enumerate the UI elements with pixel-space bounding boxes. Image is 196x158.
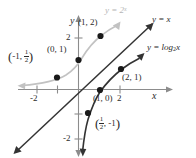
curve-label-logarithm-arg: x bbox=[176, 42, 180, 52]
y-axis-label: y bbox=[70, 16, 74, 26]
tick-label-y-pos2: 2 bbox=[66, 33, 71, 42]
point-label-neg1-half: (-1, 1 2 ) bbox=[8, 49, 33, 64]
point-0-1 bbox=[75, 57, 81, 63]
point-label-0-1: (0, 1) bbox=[47, 45, 67, 54]
point-label-half-neg1: ( 1 2 , -1) bbox=[95, 116, 120, 131]
curve-label-exponential-text: y = 2 bbox=[105, 5, 124, 15]
point-label-neg1-half-x: -1, bbox=[12, 51, 24, 61]
point-label-2-1: (2, 1) bbox=[122, 73, 142, 82]
curve-label-logarithm: y = log2x bbox=[147, 43, 180, 52]
curve-label-identity: y = x bbox=[152, 15, 171, 24]
tick-label-x-pos2: 2 bbox=[117, 94, 122, 103]
identity-line-group bbox=[14, 23, 154, 154]
logarithm-curve-bottom-arrow bbox=[80, 149, 87, 157]
tick-label-x-neg2: -2 bbox=[30, 94, 38, 103]
point-neg1-half bbox=[54, 74, 60, 80]
x-axis-label: x bbox=[152, 91, 156, 101]
tick-label-y-neg2: -2 bbox=[63, 134, 71, 143]
point-1-2 bbox=[97, 33, 103, 39]
figure-exponential-logarithm-graph: y x -2 2 2 -2 y = 2x y = x y = log2x (1,… bbox=[0, 0, 196, 158]
point-label-1-2: (1, 2) bbox=[78, 18, 98, 27]
point-label-1-0: (1, 0) bbox=[93, 94, 113, 103]
point-label-half-neg1-y: , -1 bbox=[104, 118, 116, 128]
axes-group bbox=[18, 15, 173, 157]
curve-label-exponential-exponent: x bbox=[124, 6, 127, 12]
exponential-curve-left-arrow bbox=[18, 83, 26, 90]
point-label-half-neg1-close-paren: ) bbox=[116, 116, 120, 131]
identity-line bbox=[18, 27, 149, 150]
curve-label-exponential: y = 2x bbox=[105, 6, 127, 15]
logarithm-curve-group bbox=[80, 53, 145, 157]
point-half-neg1 bbox=[85, 110, 91, 116]
x-axis-arrowhead bbox=[166, 86, 173, 92]
curve-label-logarithm-text: y = log bbox=[147, 42, 173, 52]
point-label-neg1-half-close-paren: ) bbox=[29, 49, 33, 64]
exponential-curve-right-arrow bbox=[113, 22, 121, 31]
